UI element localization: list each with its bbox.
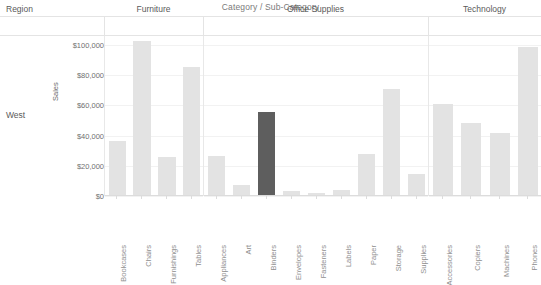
header-separator-0 bbox=[104, 16, 105, 35]
x-tick-binders bbox=[266, 196, 267, 199]
bar-copiers[interactable] bbox=[461, 123, 481, 195]
bar-slot-machines[interactable] bbox=[486, 36, 514, 195]
header-separator-2 bbox=[428, 16, 429, 35]
x-label-accessories: Accessories bbox=[445, 245, 454, 285]
bar-supplies[interactable] bbox=[408, 174, 426, 195]
bar-slot-storage[interactable] bbox=[379, 36, 404, 195]
panel-header-office-supplies: Office Supplies bbox=[203, 0, 428, 19]
x-axis-line bbox=[429, 195, 541, 196]
x-label-machines: Machines bbox=[502, 245, 511, 277]
panel-divider-1 bbox=[203, 36, 204, 196]
panel-header-technology: Technology bbox=[428, 0, 541, 19]
x-label-binders: Binders bbox=[269, 245, 278, 270]
row-label-west: West bbox=[6, 110, 25, 120]
y-tick-3: $40,000 bbox=[56, 131, 104, 140]
bar-slot-tables[interactable] bbox=[179, 36, 204, 195]
bar-slot-art[interactable] bbox=[229, 36, 254, 195]
x-axis-line bbox=[105, 195, 203, 196]
y-tick-0: $100,000 bbox=[56, 41, 104, 50]
bar-paper[interactable] bbox=[358, 154, 376, 195]
gridline-5 bbox=[429, 196, 541, 197]
bar-storage[interactable] bbox=[383, 89, 401, 195]
bar-slot-bookcases[interactable] bbox=[105, 36, 130, 195]
bar-binders[interactable] bbox=[258, 112, 276, 195]
x-label-bookcases: Bookcases bbox=[119, 245, 128, 282]
x-tick-appliances bbox=[216, 196, 217, 199]
x-tick-art bbox=[241, 196, 242, 199]
bar-bookcases[interactable] bbox=[109, 141, 126, 195]
bar-art[interactable] bbox=[233, 185, 251, 195]
x-tick-chairs bbox=[141, 196, 142, 199]
x-label-phones: Phones bbox=[530, 245, 539, 270]
bar-chairs[interactable] bbox=[133, 41, 150, 195]
gridline-5 bbox=[105, 196, 203, 197]
header-separator-1 bbox=[203, 16, 204, 35]
plot-panel-furniture bbox=[104, 36, 203, 196]
y-axis-ticks: $100,000$80,000$60,000$40,000$20,000$0 bbox=[56, 0, 104, 245]
bar-slot-copiers[interactable] bbox=[457, 36, 485, 195]
bar-phones[interactable] bbox=[518, 47, 538, 195]
bar-group bbox=[105, 36, 203, 195]
bar-envelopes[interactable] bbox=[283, 191, 301, 195]
bar-machines[interactable] bbox=[490, 133, 510, 195]
bar-slot-appliances[interactable] bbox=[204, 36, 229, 195]
bar-group bbox=[429, 36, 541, 195]
bar-fasteners[interactable] bbox=[308, 193, 326, 195]
y-tick-5: $0 bbox=[56, 192, 104, 201]
panel-header-furniture: Furniture bbox=[104, 0, 203, 19]
x-label-fasteners: Fasteners bbox=[319, 245, 328, 278]
bar-slot-accessories[interactable] bbox=[429, 36, 457, 195]
y-tick-1: $80,000 bbox=[56, 71, 104, 80]
x-tick-supplies bbox=[416, 196, 417, 199]
x-label-paper: Paper bbox=[369, 245, 378, 265]
bar-appliances[interactable] bbox=[208, 156, 226, 195]
x-tick-furnishings bbox=[166, 196, 167, 199]
x-tick-phones bbox=[527, 196, 528, 199]
bar-labels[interactable] bbox=[333, 190, 351, 195]
plot-panel-office-supplies bbox=[203, 36, 428, 196]
x-label-envelopes: Envelopes bbox=[294, 245, 303, 280]
bar-slot-labels[interactable] bbox=[329, 36, 354, 195]
bar-slot-furnishings[interactable] bbox=[155, 36, 180, 195]
x-tick-storage bbox=[391, 196, 392, 199]
x-label-appliances: Appliances bbox=[219, 245, 228, 282]
x-label-copiers: Copiers bbox=[473, 245, 482, 271]
x-tick-envelopes bbox=[291, 196, 292, 199]
bar-tables[interactable] bbox=[183, 67, 200, 195]
bar-slot-binders[interactable] bbox=[254, 36, 279, 195]
x-label-storage: Storage bbox=[394, 245, 403, 271]
y-tick-2: $60,000 bbox=[56, 101, 104, 110]
bar-slot-envelopes[interactable] bbox=[279, 36, 304, 195]
bar-accessories[interactable] bbox=[433, 104, 453, 195]
x-tick-tables bbox=[191, 196, 192, 199]
x-tick-labels bbox=[341, 196, 342, 199]
x-label-supplies: Supplies bbox=[419, 245, 428, 274]
bar-furnishings[interactable] bbox=[158, 157, 175, 195]
x-tick-paper bbox=[366, 196, 367, 199]
bar-slot-fasteners[interactable] bbox=[304, 36, 329, 195]
x-label-art: Art bbox=[244, 245, 253, 255]
x-tick-accessories bbox=[442, 196, 443, 199]
bar-slot-phones[interactable] bbox=[514, 36, 541, 195]
x-tick-copiers bbox=[470, 196, 471, 199]
x-label-tables: Tables bbox=[194, 245, 203, 267]
bar-group bbox=[204, 36, 428, 195]
y-tick-4: $20,000 bbox=[56, 161, 104, 170]
x-label-chairs: Chairs bbox=[144, 245, 153, 267]
bar-slot-chairs[interactable] bbox=[130, 36, 155, 195]
bar-slot-supplies[interactable] bbox=[404, 36, 429, 195]
x-label-labels: Labels bbox=[344, 245, 353, 267]
plot-panel-technology bbox=[428, 36, 541, 196]
bar-slot-paper[interactable] bbox=[354, 36, 379, 195]
x-tick-bookcases bbox=[116, 196, 117, 199]
x-label-furnishings: Furnishings bbox=[169, 245, 178, 284]
x-tick-fasteners bbox=[316, 196, 317, 199]
x-tick-machines bbox=[499, 196, 500, 199]
panel-divider-2 bbox=[428, 36, 429, 196]
